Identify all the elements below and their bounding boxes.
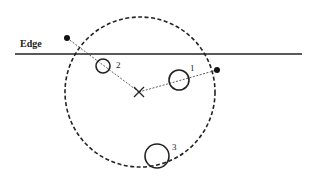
- point-left-dot: [64, 35, 70, 41]
- center-x-icon: [134, 87, 144, 97]
- object-2-label: 2: [116, 60, 121, 70]
- object-1-circle: [169, 70, 189, 90]
- point-right-dot: [214, 67, 220, 73]
- object-3-label: 3: [172, 142, 177, 152]
- edge-label: Edge: [20, 38, 42, 49]
- connector-left: [67, 38, 139, 92]
- edge-diagram: Edge 1 2 3: [0, 0, 313, 176]
- object-2-circle: [96, 59, 110, 73]
- object-1-label: 1: [190, 63, 195, 73]
- connector-right: [139, 70, 217, 92]
